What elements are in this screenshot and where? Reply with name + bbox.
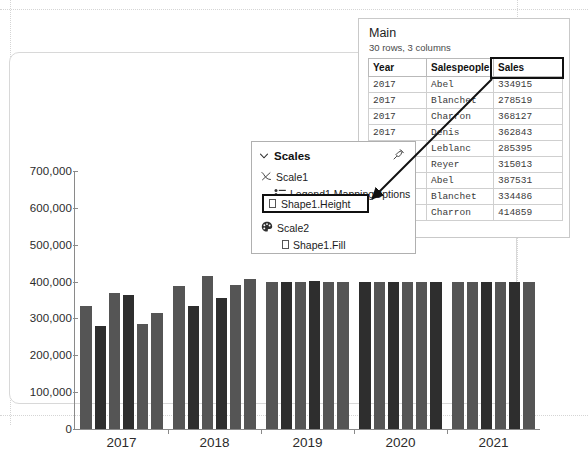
table-row: 2017Abel334915 <box>369 77 563 93</box>
table-subtitle: 30 rows, 3 columns <box>359 40 569 58</box>
tree-item-label: Shape1.Fill <box>293 239 346 251</box>
square-icon <box>282 240 289 249</box>
chart-bar <box>244 279 255 429</box>
chart-bar <box>337 282 348 429</box>
chart-bar <box>481 282 492 429</box>
y-tick-label: 500,000 <box>30 239 72 251</box>
chart-bar <box>374 282 385 429</box>
tree-item-label: Shape1.Height <box>281 198 350 210</box>
table-cell: 2017 <box>369 109 427 125</box>
tree-item-scale1[interactable]: Scale1 <box>252 168 415 185</box>
table-column-header[interactable]: Sales <box>494 59 563 77</box>
x-tick-mark <box>354 429 355 434</box>
table-cell: Reyer <box>427 157 494 173</box>
table-cell: 362843 <box>494 125 563 141</box>
x-tick-mark <box>261 429 262 434</box>
y-tick-label: 0 <box>66 423 73 435</box>
x-tick-mark <box>447 429 448 434</box>
chart-bar <box>430 282 441 429</box>
x-axis-label: 2017 <box>106 435 136 450</box>
chart-bar <box>295 282 306 429</box>
chart-bar <box>230 285 241 429</box>
x-tick-mark <box>168 429 169 434</box>
table-cell: 334915 <box>494 77 563 93</box>
square-icon <box>269 199 276 208</box>
table-cell: 2017 <box>369 125 427 141</box>
chart-bar <box>509 282 520 429</box>
table-column-header[interactable]: Salespeople <box>427 59 494 77</box>
table-cell: 387531 <box>494 173 563 189</box>
table-row: 2017Blanchet278519 <box>369 93 563 109</box>
x-axis-label: 2018 <box>199 435 229 450</box>
table-cell: 285395 <box>494 141 563 157</box>
y-tick-label: 300,000 <box>30 312 72 324</box>
chart-bar <box>109 293 120 429</box>
table-title: Main <box>359 19 569 40</box>
table-header-row: YearSalespeopleSales <box>369 59 563 77</box>
tree-item-shape1-fill[interactable]: Shape1.Fill <box>252 236 415 253</box>
table-cell: 414859 <box>494 205 563 221</box>
table-cell: Charron <box>427 205 494 221</box>
chart-bar <box>95 326 106 429</box>
chart-bar <box>202 276 213 429</box>
chart-bar <box>123 295 134 429</box>
chevron-down-icon[interactable] <box>259 147 269 165</box>
table-cell: 278519 <box>494 93 563 109</box>
chart-bar <box>523 282 534 429</box>
y-tick-label: 700,000 <box>30 165 72 177</box>
chart-bar <box>309 281 320 429</box>
tree-item-label: Scale1 <box>276 171 308 183</box>
scales-panel-title: Scales <box>274 150 310 162</box>
y-tick-label: 200,000 <box>30 349 72 361</box>
x-axis-line <box>74 429 540 430</box>
table-cell: 368127 <box>494 109 563 125</box>
table-cell: Charron <box>427 109 494 125</box>
y-tick-mark <box>73 429 78 430</box>
scales-panel-header[interactable]: Scales <box>252 142 415 167</box>
pin-icon[interactable] <box>392 147 405 165</box>
y-tick-label: 100,000 <box>30 386 72 398</box>
chart-bar <box>402 282 413 429</box>
table-cell: Abel <box>427 173 494 189</box>
chart-bar <box>452 282 463 429</box>
table-column-header[interactable]: Year <box>369 59 427 77</box>
chart-bar <box>80 306 91 429</box>
chart-bar <box>416 282 427 429</box>
chart-bar <box>467 282 478 429</box>
table-row: 2017Charron368127 <box>369 109 563 125</box>
table-cell: 2017 <box>369 93 427 109</box>
tree-item-scale2[interactable]: Scale2 <box>252 219 415 236</box>
guide-line-horizontal-top <box>0 9 588 11</box>
table-cell: 315013 <box>494 157 563 173</box>
table-cell: 334486 <box>494 189 563 205</box>
curve-icon <box>261 168 272 186</box>
table-cell: Leblanc <box>427 141 494 157</box>
chart-bar <box>359 282 370 429</box>
x-axis-label: 2019 <box>292 435 322 450</box>
palette-icon <box>261 219 273 237</box>
table-row: 2017Denis362843 <box>369 125 563 141</box>
x-axis-label: 2020 <box>385 435 415 450</box>
table-cell: 2017 <box>369 77 427 93</box>
y-tick-label: 600,000 <box>30 202 72 214</box>
table-cell: Abel <box>427 77 494 93</box>
chart-bar <box>266 282 277 429</box>
tree-item-label: Scale2 <box>277 222 309 234</box>
y-tick-label: 400,000 <box>30 276 72 288</box>
table-cell: Blanchet <box>427 93 494 109</box>
chart-bar <box>281 282 292 429</box>
chart-bar <box>137 324 148 429</box>
chart-bar <box>173 286 184 429</box>
table-cell: Denis <box>427 125 494 141</box>
x-axis-label: 2021 <box>478 435 508 450</box>
shape1-height-highlight-box[interactable]: Shape1.Height <box>262 194 369 213</box>
chart-bar <box>188 306 199 429</box>
chart-bar <box>323 282 334 429</box>
chart-bar <box>388 282 399 429</box>
chart-bar <box>495 282 506 429</box>
chart-bar <box>216 298 227 429</box>
table-cell: Blanchet <box>427 189 494 205</box>
chart-bar <box>151 313 162 429</box>
